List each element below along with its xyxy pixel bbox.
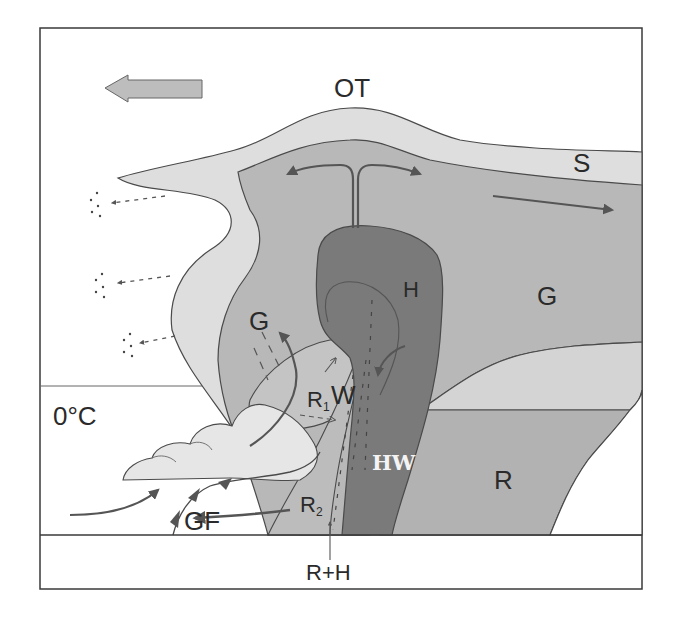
graupel-upper-label: G bbox=[537, 283, 557, 309]
graupel-left-label: G bbox=[249, 308, 269, 334]
gust-front-label: GF bbox=[184, 508, 220, 534]
wet-snow-label: W bbox=[331, 382, 356, 408]
rain-2-subscript: 2 bbox=[316, 505, 323, 519]
rain-1-subscript: 1 bbox=[323, 400, 330, 414]
hail-water-label: HW bbox=[372, 452, 415, 473]
hail-label: H bbox=[403, 279, 419, 301]
rain-plus-hail-label: R+H bbox=[306, 562, 351, 584]
rain-label: R bbox=[494, 467, 513, 493]
freezing-level-label: 0°C bbox=[53, 403, 97, 429]
snow-label: S bbox=[573, 150, 590, 176]
overshooting-top-label: OT bbox=[334, 75, 370, 101]
rain-1-label: R1 bbox=[307, 389, 330, 413]
rain-1-letter: R bbox=[307, 387, 323, 412]
rain-2-letter: R bbox=[300, 492, 316, 517]
rain-2-label: R2 bbox=[300, 494, 323, 518]
